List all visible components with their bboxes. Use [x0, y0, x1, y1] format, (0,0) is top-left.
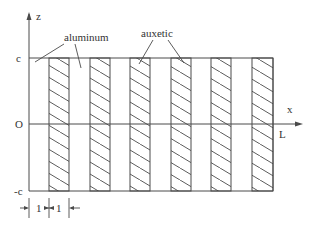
z-axis-arrow-icon — [27, 12, 32, 20]
x-axis-label: x — [287, 103, 293, 115]
dimension-left-value: 1 — [36, 202, 42, 214]
length-label: L — [279, 128, 286, 140]
auxetic-label: auxetic — [141, 27, 173, 39]
composite-diagram: z c O -c x L aluminum auxetic 1 1 — [0, 0, 314, 227]
dimension-markers — [20, 198, 80, 218]
origin-label: O — [15, 118, 23, 130]
dimension-arrow-icon — [44, 206, 49, 210]
dimension-arrow-icon — [69, 206, 74, 210]
dimension-arrow-icon — [49, 206, 54, 210]
aluminum-leader-right — [75, 44, 81, 68]
dimension-arrow-icon — [24, 206, 29, 210]
dimension-right-value: 1 — [56, 202, 62, 214]
x-axis-arrow-icon — [295, 122, 303, 127]
bottom-bound-label: -c — [14, 185, 23, 197]
aluminum-label: aluminum — [64, 31, 109, 43]
z-axis-label: z — [36, 10, 41, 22]
top-bound-label: c — [16, 52, 21, 64]
z-axis — [27, 12, 32, 191]
